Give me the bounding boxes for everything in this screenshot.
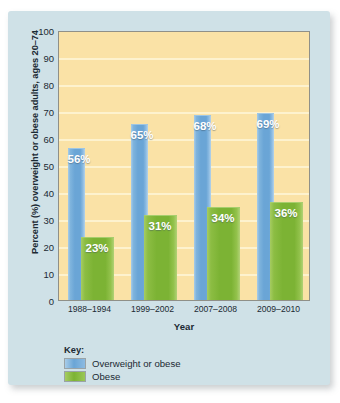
bar-value-label: 69%: [257, 118, 274, 130]
legend-swatch-blue: [64, 358, 86, 369]
y-axis-tick-label: 0: [26, 296, 54, 307]
y-axis-tick-label: 40: [26, 188, 54, 199]
y-axis-tick-label: 20: [26, 242, 54, 253]
bar-value-label: 65%: [131, 129, 148, 141]
y-axis-tick-label: 30: [26, 215, 54, 226]
bar-value-label: 31%: [144, 220, 177, 232]
bar-group: 56%23%: [68, 32, 114, 300]
x-axis-tick-label: 2007–2008: [184, 304, 247, 314]
legend-item-label: Overweight or obese: [92, 358, 181, 369]
bar-value-label: 23%: [81, 242, 114, 254]
x-axis-tick-labels: 1988–19941999–20022007–20082009–2010: [58, 304, 310, 318]
y-axis-tick-label: 80: [26, 80, 54, 91]
y-axis-tick-label: 60: [26, 134, 54, 145]
legend: Key: Overweight or obeseObese: [64, 345, 181, 382]
bar-value-label: 56%: [68, 153, 85, 165]
y-axis-tick-labels: 1009080706050403020100: [26, 31, 54, 301]
x-axis-tick-label: 1988–1994: [58, 304, 121, 314]
legend-item-label: Obese: [92, 371, 120, 382]
bar-obese[interactable]: 34%: [207, 207, 240, 300]
bar-group: 69%36%: [257, 32, 303, 300]
y-axis-tick-label: 90: [26, 53, 54, 64]
plot-area: 56%23%65%31%68%34%69%36%: [58, 31, 310, 301]
x-axis-tick-label: 1999–2002: [121, 304, 184, 314]
y-axis-tick-label: 50: [26, 161, 54, 172]
legend-item[interactable]: Overweight or obese: [64, 358, 181, 369]
legend-title: Key:: [64, 345, 181, 355]
y-axis-tick-label: 10: [26, 269, 54, 280]
x-axis-title: Year: [58, 321, 310, 332]
legend-items: Overweight or obeseObese: [64, 358, 181, 382]
bar-value-label: 34%: [207, 212, 240, 224]
y-axis-tick-label: 70: [26, 107, 54, 118]
bar-obese[interactable]: 31%: [144, 215, 177, 300]
bar-obese[interactable]: 36%: [270, 202, 303, 300]
bar-group: 65%31%: [131, 32, 177, 300]
legend-item[interactable]: Obese: [64, 371, 181, 382]
bar-value-label: 36%: [270, 207, 303, 219]
bar-group: 68%34%: [194, 32, 240, 300]
y-axis-tick-label: 100: [26, 26, 54, 37]
figure-card: Percent (%) overweight or obese adults, …: [8, 11, 330, 385]
bar-obese[interactable]: 23%: [81, 237, 114, 300]
legend-swatch-green: [64, 371, 86, 382]
bar-value-label: 68%: [194, 120, 211, 132]
x-axis-tick-label: 2009–2010: [247, 304, 310, 314]
